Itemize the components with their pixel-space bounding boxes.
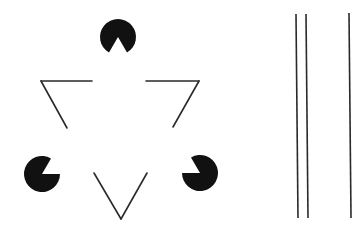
- pacman-inducers: [24, 19, 218, 192]
- pacman-top: [100, 19, 136, 53]
- pacman-left: [24, 156, 60, 192]
- kanizsa-figure: [0, 0, 353, 232]
- segment-bottom-right-diagonal: [121, 173, 147, 219]
- vertical-line-3: [349, 13, 351, 218]
- vertical-line-1: [296, 14, 298, 218]
- segment-bottom-left-diagonal: [94, 173, 121, 219]
- segment-top-left-diagonal: [41, 81, 67, 128]
- outline-triangle: [41, 81, 199, 219]
- segment-top-right-diagonal: [173, 81, 199, 127]
- vertical-line-2: [306, 14, 308, 218]
- parallel-vertical-lines: [296, 13, 351, 218]
- pacman-right: [182, 155, 218, 191]
